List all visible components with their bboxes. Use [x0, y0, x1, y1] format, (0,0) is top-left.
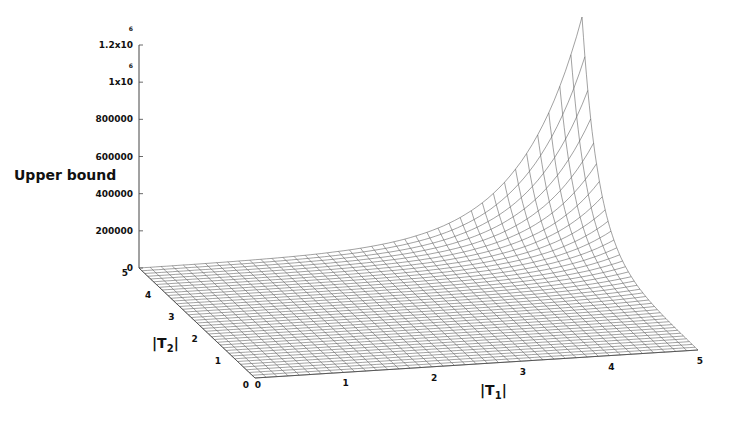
- mesh-line-y: [183, 265, 299, 375]
- x-tick-label: 0: [255, 380, 261, 390]
- y-tick-label: 0: [243, 380, 249, 390]
- y-tick-label: 2: [191, 334, 197, 344]
- y-axis-line: [139, 268, 255, 378]
- y-axis-title-bar: |: [174, 335, 179, 352]
- y-tick-label: 4: [145, 290, 151, 300]
- surface-plot: 02000004000006000008000001x1061.2x106012…: [0, 0, 730, 426]
- mesh-line-x: [139, 17, 582, 268]
- axes: [139, 45, 698, 378]
- mesh-line-y: [383, 244, 499, 362]
- mesh-line-y: [194, 264, 310, 374]
- mesh-line-x: [165, 221, 608, 293]
- z-tick-label: 200000: [95, 226, 133, 236]
- z-tick-label: 1.2x10: [99, 40, 133, 50]
- x-tick-label: 1: [342, 378, 348, 388]
- y-tick-label: 5: [122, 268, 128, 278]
- y-axis-title: |T2|: [152, 335, 179, 354]
- z-tick-exponent: 6: [129, 25, 133, 32]
- surface-chart: 02000004000006000008000001x1061.2x106012…: [0, 0, 730, 426]
- mesh-line-x: [168, 231, 611, 295]
- mesh-line-y: [549, 113, 665, 352]
- mesh-line-y: [560, 86, 676, 351]
- mesh-line-y: [427, 232, 543, 359]
- surface-mesh: [139, 17, 698, 378]
- z-tick-exponent: 6: [129, 62, 133, 69]
- mesh-line-x: [142, 57, 585, 271]
- x-tick-label: 4: [608, 362, 614, 372]
- y-tick-label: 3: [168, 312, 174, 322]
- mesh-line-x: [154, 164, 597, 282]
- x-axis-title-bar: |: [502, 382, 507, 399]
- z-tick-label: 400000: [95, 189, 133, 199]
- x-tick-label: 3: [520, 367, 526, 377]
- mesh-line-x: [145, 90, 588, 273]
- x-axis-line: [255, 350, 698, 378]
- z-tick-label: 600000: [95, 152, 133, 162]
- mesh-line-y: [172, 266, 288, 376]
- x-tick-label: 5: [697, 356, 703, 366]
- x-axis-title-subscript: 1: [495, 390, 502, 401]
- x-tick-label: 2: [431, 373, 437, 383]
- mesh-line-y: [582, 17, 698, 350]
- y-tick-label: 1: [215, 356, 221, 366]
- z-tick-label: 800000: [95, 114, 133, 124]
- mesh-line-y: [571, 55, 687, 351]
- z-tick-label: 1x10: [108, 77, 133, 87]
- y-axis-title-subscript: 2: [167, 343, 174, 354]
- x-axis-title: |T1|: [480, 382, 507, 401]
- mesh-line-x: [148, 119, 591, 276]
- z-axis-title: Upper bound: [14, 167, 116, 183]
